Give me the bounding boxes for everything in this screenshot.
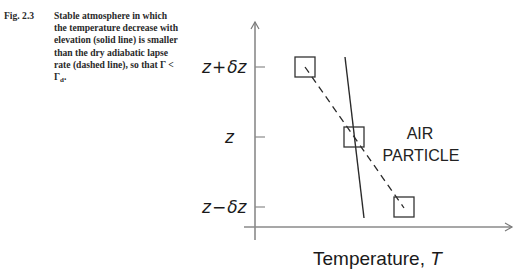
environment-solid-line bbox=[345, 57, 364, 218]
tick-label-middle: z bbox=[224, 127, 235, 147]
tick-label-lower: z−δz bbox=[201, 197, 248, 217]
tick-label-upper: z+δz bbox=[201, 57, 248, 77]
annotation-air: AIR bbox=[407, 125, 434, 142]
annotation-particle: PARTICLE bbox=[383, 147, 460, 164]
x-axis-label: Temperature, T bbox=[313, 248, 443, 269]
lapse-rate-diagram: z+δz z z−δz AIR PARTICLE Temperature, T bbox=[0, 0, 521, 277]
